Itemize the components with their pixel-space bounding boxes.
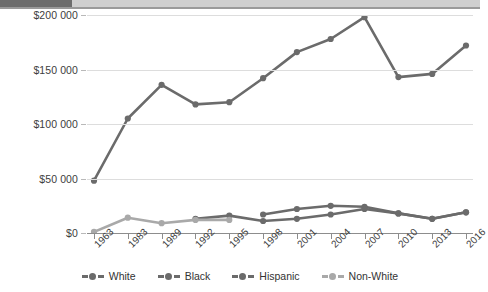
data-point-white[interactable] (294, 206, 300, 212)
data-point-hispanic[interactable] (260, 218, 266, 224)
legend-item-white[interactable]: White (82, 270, 136, 282)
y-axis-tick (81, 233, 86, 234)
legend-label: Hispanic (259, 270, 299, 282)
data-point-hispanic[interactable] (463, 209, 469, 215)
y-axis-label: $0 (0, 227, 78, 239)
data-point-white[interactable] (260, 211, 266, 217)
data-point-non-white[interactable] (226, 217, 232, 223)
legend-label: Black (185, 270, 211, 282)
y-gridline (87, 179, 473, 180)
data-point-hispanic[interactable] (361, 206, 367, 212)
data-point-non-white[interactable] (159, 220, 165, 226)
y-axis-tick (81, 15, 86, 16)
chart-legend: WhiteBlackHispanicNon-White (0, 265, 480, 287)
legend-item-hispanic[interactable]: Hispanic (232, 270, 299, 282)
data-point-black[interactable] (192, 101, 198, 107)
legend-marker-icon (232, 272, 254, 281)
data-point-white[interactable] (328, 203, 334, 209)
y-axis-tick (81, 179, 86, 180)
data-point-black[interactable] (159, 82, 165, 88)
y-axis-label: $100 000 (0, 118, 78, 130)
data-point-black[interactable] (463, 42, 469, 48)
y-axis-tick (81, 70, 86, 71)
legend-label: Non-White (349, 270, 399, 282)
legend-item-black[interactable]: Black (158, 270, 211, 282)
legend-marker-icon (158, 272, 180, 281)
data-point-hispanic[interactable] (294, 216, 300, 222)
legend-item-non-white[interactable]: Non-White (322, 270, 399, 282)
data-point-black[interactable] (429, 71, 435, 77)
data-point-black[interactable] (125, 115, 131, 121)
data-point-black[interactable] (226, 99, 232, 105)
y-axis-label: $50 000 (0, 173, 78, 185)
data-point-non-white[interactable] (125, 215, 131, 221)
y-gridline (87, 70, 473, 71)
top-toolbar-strip (0, 0, 480, 9)
y-axis-label: $200 000 (0, 9, 78, 21)
legend-marker-icon (82, 272, 104, 281)
series-line-black (94, 17, 466, 181)
data-point-black[interactable] (260, 75, 266, 81)
data-point-hispanic[interactable] (395, 210, 401, 216)
data-point-non-white[interactable] (192, 217, 198, 223)
data-point-black[interactable] (328, 36, 334, 42)
y-axis-tick (81, 124, 86, 125)
data-point-hispanic[interactable] (429, 216, 435, 222)
data-point-hispanic[interactable] (328, 211, 334, 217)
legend-label: White (109, 270, 136, 282)
data-point-black[interactable] (294, 49, 300, 55)
line-chart: $0$50 000$100 000$150 000$200 0001963198… (0, 9, 480, 292)
y-axis-label: $150 000 (0, 64, 78, 76)
y-gridline (87, 124, 473, 125)
legend-marker-icon (322, 272, 344, 281)
y-gridline (87, 15, 473, 16)
data-point-black[interactable] (395, 74, 401, 80)
